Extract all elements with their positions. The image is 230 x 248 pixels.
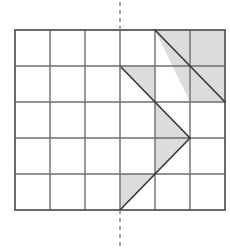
figure-container — [0, 0, 230, 248]
grid-figure-svg — [0, 0, 230, 248]
